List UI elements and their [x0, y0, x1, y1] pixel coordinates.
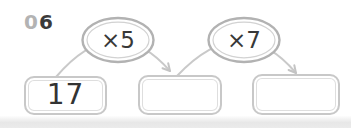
start-value-box: 17: [24, 76, 107, 115]
problem-number-digit: 6: [39, 10, 54, 34]
answer-box-end[interactable]: [252, 74, 340, 115]
worksheet-problem: 06 ×5 ×7 17: [0, 0, 351, 128]
answer-box-middle[interactable]: [138, 75, 222, 115]
problem-number: 06: [24, 12, 54, 32]
multiply-by-5-label: ×5: [83, 29, 153, 52]
page-edge-shadow: [0, 116, 351, 128]
multiply-by-7-label: ×7: [209, 29, 279, 52]
start-value: 17: [47, 81, 85, 111]
problem-number-prefix: 0: [24, 10, 39, 34]
